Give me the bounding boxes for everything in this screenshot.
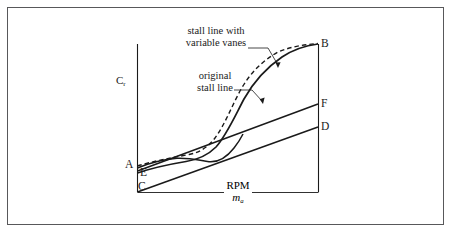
- y-axis-label-subscript: r: [123, 80, 125, 87]
- y-axis-label: Cr: [116, 74, 126, 88]
- point-label-c: C: [138, 180, 146, 193]
- variable-vanes-stall-line-curve: [138, 44, 319, 167]
- annotation-original-stall-line1: original: [199, 70, 232, 81]
- annotation-variable-vanes-line1: stall line with: [187, 25, 244, 36]
- leader-arrow-variable-vanes: [275, 62, 280, 68]
- point-label-b: B: [321, 37, 329, 50]
- point-label-d: D: [321, 120, 329, 133]
- x-axis-label: RPM ma: [196, 180, 280, 204]
- x-axis-denominator-subscript: a: [240, 196, 243, 203]
- point-label-a: A: [125, 158, 133, 171]
- annotation-variable-vanes-line2: variable vanes: [186, 37, 246, 48]
- annotation-variable-vanes: stall line with variable vanes: [178, 25, 254, 49]
- x-axis-label-denominator: ma: [196, 192, 280, 204]
- original-stall-line-curve: [138, 44, 319, 173]
- annotation-original-stall: original stall line: [186, 70, 244, 94]
- point-label-f: F: [321, 97, 327, 110]
- figure-container: Cr RPM ma stall line with variable vanes…: [0, 0, 453, 234]
- annotation-original-stall-line2: stall line: [197, 82, 233, 93]
- point-label-e: E: [140, 166, 147, 179]
- leader-arrow-original-stall: [260, 98, 265, 104]
